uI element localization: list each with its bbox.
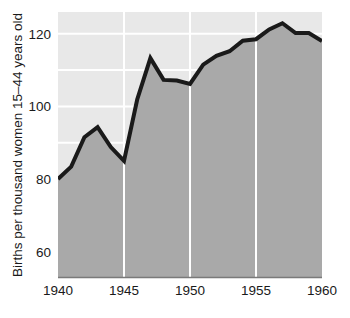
x-tick-label-1940: 1940 <box>43 283 73 298</box>
y-tick-label-120: 120 <box>28 27 51 42</box>
y-axis-title: Births per thousand women 15–44 years ol… <box>10 13 25 277</box>
x-tick-label-1950: 1950 <box>175 283 205 298</box>
x-axis-tick-labels: 19401945195019551960 <box>43 283 337 298</box>
y-axis-tick-labels: 6080100120 <box>28 27 51 260</box>
birth-rate-area-chart: 6080100120 19401945195019551960 Births p… <box>0 0 350 318</box>
chart-container: 6080100120 19401945195019551960 Births p… <box>0 0 350 318</box>
x-tick-label-1955: 1955 <box>241 283 271 298</box>
y-tick-label-60: 60 <box>36 245 51 260</box>
y-tick-label-80: 80 <box>36 172 51 187</box>
x-tick-label-1960: 1960 <box>307 283 337 298</box>
y-tick-label-100: 100 <box>28 99 51 114</box>
x-tick-label-1945: 1945 <box>109 283 139 298</box>
